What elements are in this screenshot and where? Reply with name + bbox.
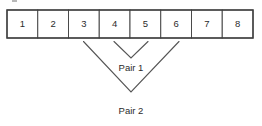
scan-artifact-speck [12, 0, 17, 2]
cell-label-4: 4 [112, 18, 117, 29]
pair-1-connector: Pair 1 [114, 42, 148, 73]
cell-row: 1 2 3 4 5 6 7 8 [7, 10, 253, 38]
pair-1-v-line [114, 42, 148, 59]
cell-label-1: 1 [20, 18, 25, 29]
cell-label-8: 8 [235, 18, 240, 29]
cell-label-6: 6 [173, 18, 178, 29]
cell-label-5: 5 [143, 18, 148, 29]
pair-1-label: Pair 1 [119, 62, 144, 73]
cell-label-3: 3 [81, 18, 86, 29]
pair-diagram: 1 2 3 4 5 6 7 8 Pair 1 Pair 2 [0, 0, 262, 126]
cell-label-2: 2 [50, 18, 55, 29]
cell-label-7: 7 [204, 18, 209, 29]
pair-2-connector: Pair 2 [84, 42, 180, 116]
pair-2-label: Pair 2 [119, 105, 144, 116]
diagram-canvas: 1 2 3 4 5 6 7 8 Pair 1 Pair 2 [0, 0, 262, 126]
